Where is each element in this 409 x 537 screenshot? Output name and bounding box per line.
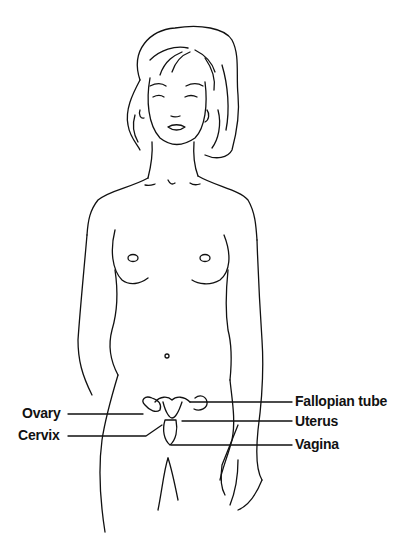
face — [139, 78, 208, 144]
torso — [100, 354, 234, 532]
cervix-leader — [68, 425, 162, 436]
anatomy-diagram: Ovary Cervix Fallopian tube Uterus Vagin… — [0, 0, 409, 537]
label-vagina: Vagina — [295, 436, 339, 452]
hair — [127, 27, 238, 158]
legs — [158, 458, 178, 510]
neck-shoulders — [87, 142, 257, 240]
label-ovary: Ovary — [22, 405, 61, 421]
label-cervix: Cervix — [18, 427, 60, 443]
label-uterus: Uterus — [295, 413, 338, 429]
arms — [78, 235, 263, 480]
right-hand — [221, 425, 262, 510]
female-figure-illustration — [0, 0, 409, 537]
label-fallopian-tube: Fallopian tube — [295, 393, 387, 409]
breasts — [112, 230, 229, 284]
